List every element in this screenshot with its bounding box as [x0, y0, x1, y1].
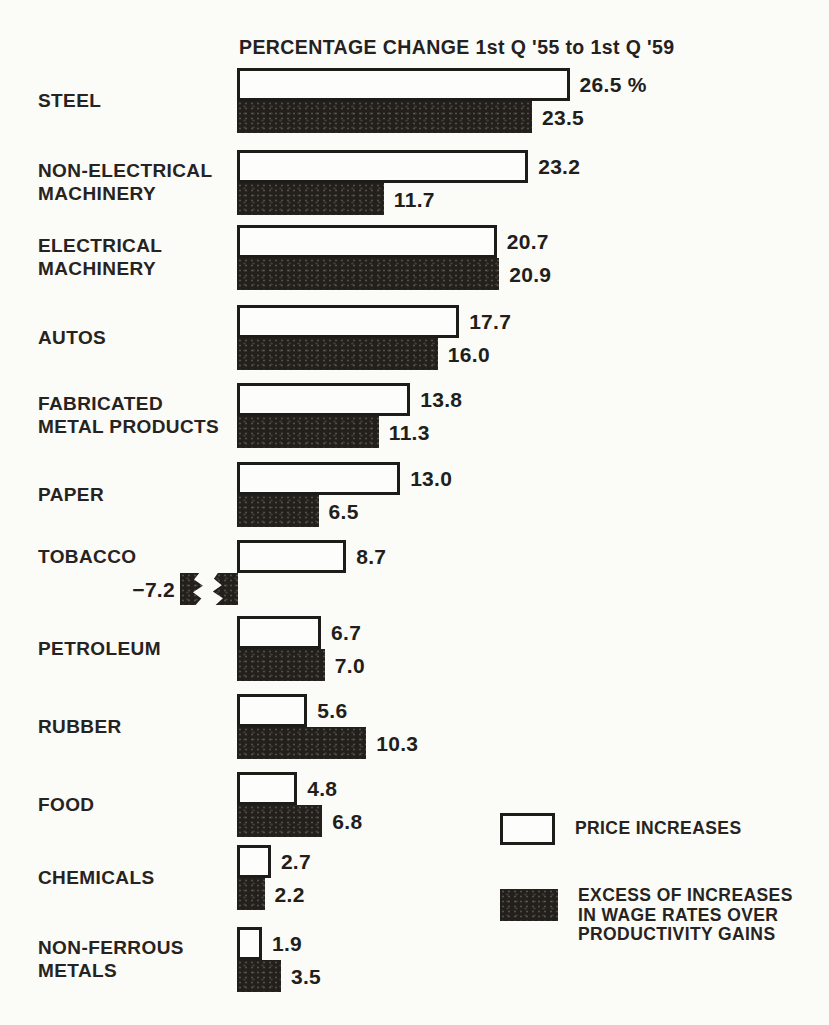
category-label: ELECTRICAL MACHINERY — [38, 234, 233, 280]
wage-bar-negative-segment — [210, 573, 238, 605]
category-label: TOBACCO — [38, 545, 233, 568]
category-label: AUTOS — [38, 326, 233, 349]
price-value-label: 1.9 — [272, 927, 302, 960]
price-value-label: 23.2 — [538, 150, 580, 183]
chart-title: PERCENTAGE CHANGE 1st Q '55 to 1st Q '59 — [239, 36, 675, 59]
chart-row: RUBBER5.610.3 — [0, 694, 829, 758]
price-value-label: 8.7 — [356, 540, 386, 573]
wage-bar — [237, 416, 379, 448]
price-value-label: 26.5 % — [580, 68, 647, 101]
chart-row: STEEL26.5 %23.5 — [0, 68, 829, 132]
category-label: FABRICATED METAL PRODUCTS — [38, 392, 233, 438]
price-bar — [237, 462, 400, 495]
wage-bar — [237, 183, 384, 215]
chart-row: AUTOS17.716.0 — [0, 305, 829, 369]
price-bar — [237, 383, 410, 416]
chart-row: PAPER13.06.5 — [0, 462, 829, 526]
price-value-label: 5.6 — [317, 694, 347, 727]
price-value-label: 6.7 — [331, 616, 361, 649]
wage-value-label: 2.2 — [275, 878, 305, 911]
wage-value-label: 6.5 — [329, 495, 359, 528]
wage-bar — [237, 960, 281, 992]
category-label: NON-ELECTRICAL MACHINERY — [38, 159, 233, 205]
wage-value-label: 7.0 — [335, 649, 365, 682]
price-bar — [237, 540, 346, 573]
price-value-label: 2.7 — [281, 845, 311, 878]
category-label: NON-FERROUS METALS — [38, 936, 233, 982]
wage-value-label: 10.3 — [376, 727, 418, 760]
price-bar — [237, 694, 307, 727]
wage-value-label: 3.5 — [291, 960, 321, 993]
price-bar — [237, 845, 271, 878]
wage-value-label: −7.2 — [85, 573, 175, 606]
wage-value-label: 23.5 — [542, 101, 584, 134]
wage-bar — [237, 338, 438, 370]
price-value-label: 4.8 — [307, 772, 337, 805]
chart-page: PERCENTAGE CHANGE 1st Q '55 to 1st Q '59… — [0, 0, 829, 1025]
category-label: PAPER — [38, 483, 233, 506]
chart-row: CHEMICALS2.72.2 — [0, 845, 829, 909]
wage-bar — [237, 805, 322, 837]
chart-row: FOOD4.86.8 — [0, 772, 829, 836]
wage-bar — [237, 495, 319, 527]
chart-row: NON-ELECTRICAL MACHINERY23.211.7 — [0, 150, 829, 214]
wage-value-label: 11.7 — [394, 183, 435, 216]
price-value-label: 20.7 — [507, 225, 549, 258]
axis-break-mark — [180, 573, 206, 605]
category-label: RUBBER — [38, 715, 233, 738]
price-value-label: 13.0 — [410, 462, 452, 495]
wage-bar — [237, 258, 499, 290]
category-label: STEEL — [38, 89, 233, 112]
price-bar — [237, 225, 497, 258]
category-label: PETROLEUM — [38, 637, 233, 660]
wage-bar — [237, 878, 265, 910]
wage-value-label: 6.8 — [332, 805, 362, 838]
chart-row: ELECTRICAL MACHINERY20.720.9 — [0, 225, 829, 289]
price-bar — [237, 772, 297, 805]
wage-value-label: 16.0 — [448, 338, 490, 371]
price-bar — [237, 616, 321, 649]
wage-bar — [237, 649, 325, 681]
chart-row: TOBACCO8.7−7.2 — [0, 540, 829, 604]
wage-value-label: 11.3 — [389, 416, 430, 449]
price-bar — [237, 305, 459, 338]
price-value-label: 17.7 — [469, 305, 511, 338]
category-label: FOOD — [38, 793, 233, 816]
wage-bar — [237, 101, 532, 133]
wage-bar — [237, 727, 366, 759]
price-bar — [237, 68, 570, 101]
chart-row: FABRICATED METAL PRODUCTS13.811.3 — [0, 383, 829, 447]
category-label: CHEMICALS — [38, 866, 233, 889]
wage-value-label: 20.9 — [509, 258, 551, 291]
price-bar — [237, 927, 262, 960]
price-value-label: 13.8 — [420, 383, 462, 416]
chart-row: PETROLEUM6.77.0 — [0, 616, 829, 680]
price-bar — [237, 150, 528, 183]
chart-row: NON-FERROUS METALS1.93.5 — [0, 927, 829, 991]
